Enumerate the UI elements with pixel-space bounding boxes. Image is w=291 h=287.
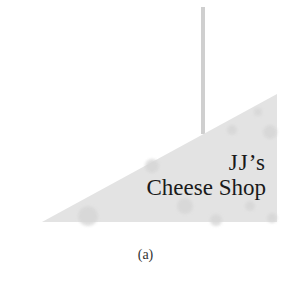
sign-text-line1: JJ’s [229,150,266,176]
hanging-rod [201,7,205,134]
sign-text-line2: Cheese Shop [147,175,266,201]
figure-caption: (a) [0,247,291,263]
cheese-sign-diagram [0,0,291,287]
figure: JJ’s Cheese Shop (a) [0,0,291,287]
